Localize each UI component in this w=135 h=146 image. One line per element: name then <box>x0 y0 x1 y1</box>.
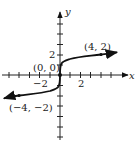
point-origin <box>58 73 62 77</box>
point-neg4-neg2 <box>17 94 20 97</box>
x-tick-label-neg2: −2 <box>33 78 48 89</box>
point-label-neg4-neg2: (−4, −2) <box>9 102 53 113</box>
x-axis-label: x <box>129 70 135 81</box>
x-tick-label-2: 2 <box>78 78 84 89</box>
point-label-origin: (0, 0) <box>33 62 60 73</box>
y-tick-label-2: 2 <box>49 49 55 60</box>
graph: x −2 2 y 2 (0, 0) (4, 2) <box>0 0 135 146</box>
y-axis-label: y <box>64 6 71 17</box>
point-label-4-2: (4, 2) <box>84 41 111 52</box>
point-4-2 <box>99 53 102 56</box>
x-axis: x −2 2 <box>2 70 135 89</box>
